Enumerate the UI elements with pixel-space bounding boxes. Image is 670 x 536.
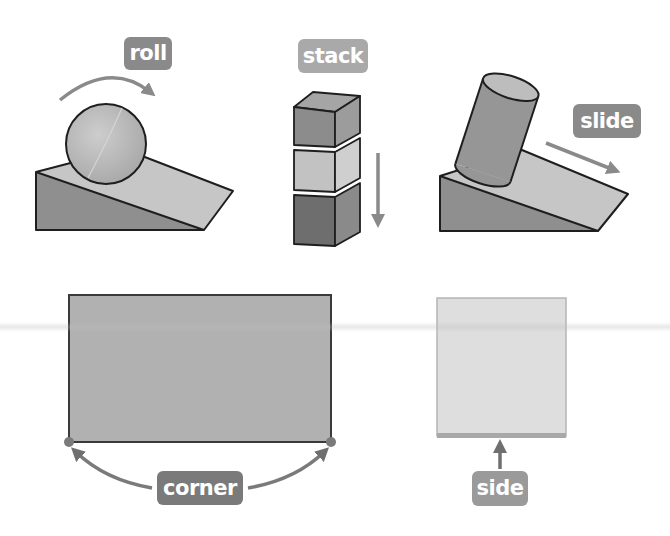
rectangle-shape — [69, 295, 331, 442]
label-side: side — [472, 471, 528, 506]
label-stack: stack — [298, 39, 368, 73]
side-panel — [437, 298, 566, 469]
square-shape — [437, 298, 566, 436]
diagram-canvas: roll stack slide corner side — [0, 0, 670, 536]
cube-top-front — [294, 107, 335, 147]
corner-dot-right — [326, 437, 336, 447]
corner-panel — [64, 295, 336, 488]
cube-mid-front — [294, 150, 335, 192]
roll-curved-arrow — [60, 78, 150, 100]
corner-arrow-right — [248, 452, 324, 488]
corner-dot-left — [64, 437, 74, 447]
roll-panel — [36, 78, 233, 230]
cube-bottom-front — [294, 195, 335, 246]
diagram-svg — [0, 0, 670, 536]
label-roll: roll — [124, 37, 172, 70]
stack-panel — [294, 92, 378, 246]
sphere — [66, 104, 146, 184]
corner-arrow-left — [76, 452, 152, 488]
cube-mid-side — [335, 138, 360, 192]
slide-panel — [440, 68, 628, 231]
label-corner: corner — [157, 471, 243, 505]
label-slide: slide — [573, 104, 641, 138]
cube-bottom-side — [335, 183, 360, 246]
square-bottom-side — [437, 433, 566, 438]
